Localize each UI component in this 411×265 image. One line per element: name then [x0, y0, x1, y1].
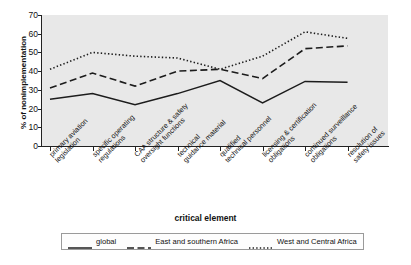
legend-swatch-dotted	[249, 238, 273, 246]
y-tick-mark	[38, 146, 41, 147]
x-tick-mark	[263, 147, 264, 151]
legend-item: West and Central Africa	[249, 237, 357, 246]
legend-label: global	[96, 237, 116, 246]
legend-label: West and Central Africa	[277, 237, 357, 246]
chart-legend: globalEast and southern AfricaWest and C…	[61, 233, 364, 250]
y-tick-mark	[38, 71, 41, 72]
x-tick-mark	[305, 147, 306, 151]
x-tick-mark	[93, 147, 94, 151]
x-tick-mark	[135, 147, 136, 151]
chart-figure: % of nonimplementation 706050403020100 p…	[0, 0, 411, 265]
x-tick-label: resolution ofsafety issues	[346, 124, 387, 165]
y-tick-mark	[38, 109, 41, 110]
legend-swatch-solid	[68, 238, 92, 246]
x-tick-mark	[178, 147, 179, 151]
legend-label: East and southern Africa	[155, 237, 238, 246]
x-tick-label: primary aviationlegislation	[48, 117, 96, 165]
legend-swatch-dashed	[127, 238, 151, 246]
x-tick-label: specific operatingregulations	[91, 113, 142, 164]
y-tick-mark	[38, 52, 41, 53]
x-tick-mark	[220, 147, 221, 151]
legend-item: East and southern Africa	[127, 237, 238, 246]
x-axis-title: critical element	[0, 213, 411, 223]
legend-item: global	[68, 237, 116, 246]
y-tick-mark	[38, 15, 41, 16]
y-tick-mark	[38, 90, 41, 91]
x-tick-mark	[348, 147, 349, 151]
y-tick-mark	[38, 127, 41, 128]
x-tick-mark	[50, 147, 51, 151]
y-tick-mark	[38, 34, 41, 35]
x-axis-tick-labels: primary aviationlegislationspecific oper…	[0, 0, 411, 265]
